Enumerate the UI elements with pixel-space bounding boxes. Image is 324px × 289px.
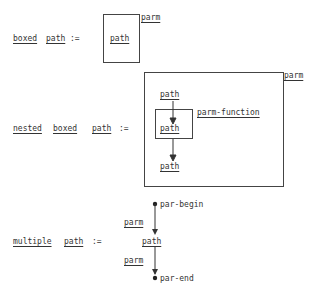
diagram-connectors [0,0,324,289]
arrow-mid-to-bottom [170,139,176,161]
par-end-dot [153,276,157,280]
arrow-top-to-mid [170,101,176,124]
